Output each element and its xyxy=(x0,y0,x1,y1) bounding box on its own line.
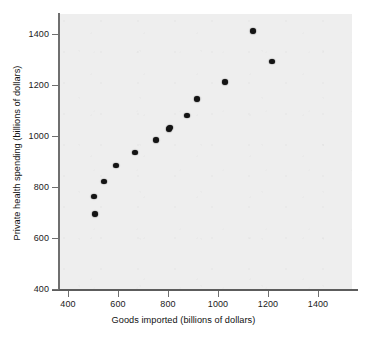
x-tick-mark xyxy=(118,291,119,297)
x-tick-label: 800 xyxy=(148,299,188,309)
y-axis-line xyxy=(58,13,60,290)
x-tick-mark xyxy=(318,291,319,297)
x-tick-mark xyxy=(68,291,69,297)
y-tick-mark xyxy=(52,289,59,290)
x-axis-title: Goods imported (billions of dollars) xyxy=(0,315,367,325)
x-tick-mark xyxy=(218,291,219,297)
data-point xyxy=(153,137,159,143)
x-tick-label: 400 xyxy=(48,299,88,309)
y-tick-mark xyxy=(52,187,59,188)
data-point xyxy=(92,211,98,217)
y-tick-mark xyxy=(52,85,59,86)
x-axis-line xyxy=(52,289,358,291)
scatter-plot-figure: 400600800100012001400 400600800100012001… xyxy=(0,0,367,351)
data-point xyxy=(250,28,256,34)
y-tick-mark xyxy=(52,136,59,137)
y-tick-mark xyxy=(52,238,59,239)
x-tick-label: 1000 xyxy=(198,299,238,309)
data-point xyxy=(132,150,138,156)
y-tick-mark xyxy=(52,34,59,35)
x-tick-mark xyxy=(268,291,269,297)
plot-area xyxy=(59,14,352,289)
data-point xyxy=(222,79,228,85)
x-tick-label: 600 xyxy=(98,299,138,309)
data-point xyxy=(113,163,119,169)
y-axis-title-text: Private health spending (billions of dol… xyxy=(12,65,22,240)
x-tick-label: 1400 xyxy=(298,299,338,309)
x-tick-mark xyxy=(168,291,169,297)
x-tick-label: 1200 xyxy=(248,299,288,309)
y-axis-title: Private health spending (billions of dol… xyxy=(10,0,24,305)
data-point xyxy=(167,125,173,131)
